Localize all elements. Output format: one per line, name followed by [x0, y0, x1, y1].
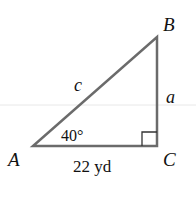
vertex-label-c: C [163, 149, 176, 170]
angle-label-a: 40° [61, 127, 83, 144]
right-angle-marker [142, 132, 157, 146]
vertex-label-b: B [163, 14, 175, 35]
side-label-hypotenuse: c [74, 75, 82, 95]
triangle-diagram: A B C c a 22 yd 40° [0, 0, 196, 198]
side-label-opposite: a [166, 87, 175, 107]
triangle [33, 37, 157, 146]
vertex-label-a: A [6, 149, 20, 170]
side-label-adjacent: 22 yd [73, 157, 112, 176]
